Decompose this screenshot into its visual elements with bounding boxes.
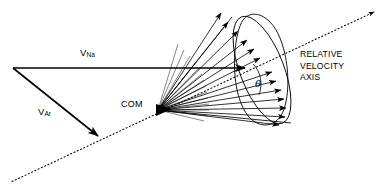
v-ar-vector bbox=[13, 68, 98, 136]
cone-ray bbox=[158, 90, 281, 110]
diagram-canvas bbox=[0, 0, 391, 187]
axis-label-line-3: AXIS bbox=[300, 72, 320, 82]
v-ar-subscript: Ar bbox=[44, 110, 51, 117]
cone-base-outline bbox=[221, 9, 303, 131]
cone-ray bbox=[158, 13, 221, 110]
cone-ray-fan bbox=[158, 13, 286, 125]
v-na-label: VNa bbox=[80, 48, 95, 60]
cone-base-ellipse bbox=[221, 9, 303, 131]
v-ar-arrow bbox=[13, 68, 98, 136]
relative-velocity-axis-label: RELATIVEVELOCITYAXIS bbox=[300, 49, 344, 84]
theta-label: θ bbox=[255, 79, 261, 89]
com-label: COM bbox=[121, 99, 143, 109]
axis-label-line-2: VELOCITY bbox=[300, 61, 344, 71]
v-ar-label: VAr bbox=[38, 107, 51, 119]
scattering-cone-diagram: VNa VAr COM RELATIVEVELOCITYAXIS θ bbox=[0, 0, 391, 187]
relative-velocity-axis bbox=[12, 12, 374, 182]
axis-label-line-1: RELATIVE bbox=[300, 49, 343, 59]
axis-dotted-line bbox=[12, 12, 374, 182]
apex-shade-line bbox=[158, 50, 184, 110]
v-na-subscript: Na bbox=[86, 51, 94, 58]
